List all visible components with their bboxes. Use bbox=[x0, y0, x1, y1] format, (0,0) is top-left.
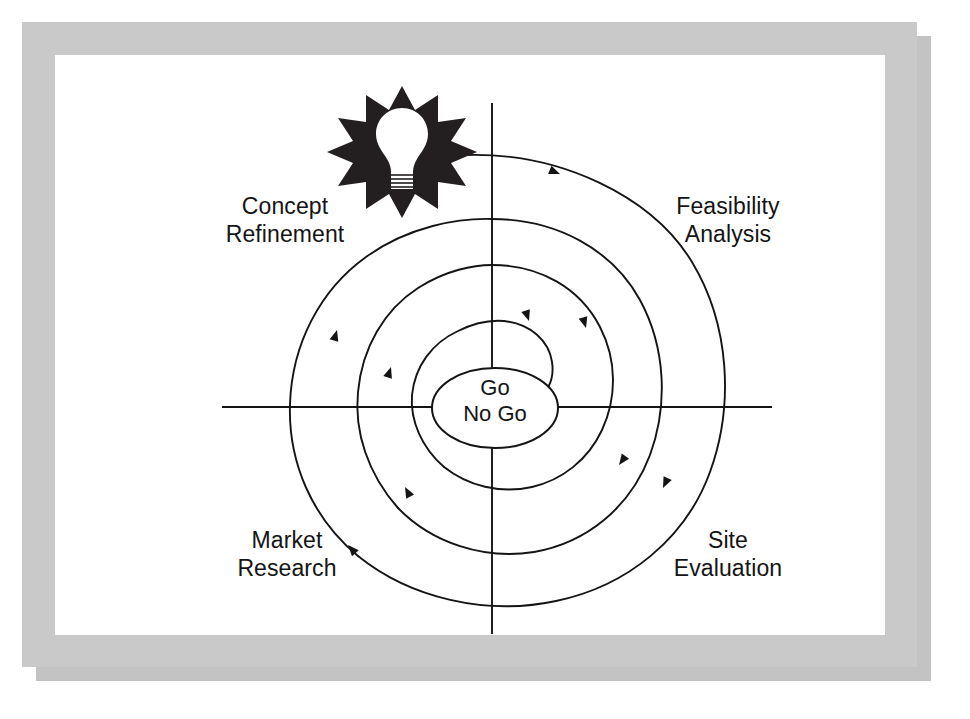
label-site-evaluation: Site Evaluation bbox=[628, 526, 828, 582]
label-market-research: Market Research bbox=[182, 526, 392, 582]
label-feasibility-analysis: Feasibility Analysis bbox=[628, 192, 828, 248]
label-concept-refinement: Concept Refinement bbox=[180, 192, 390, 248]
figure-root: Concept Refinement Feasibility Analysis … bbox=[0, 0, 970, 719]
label-go-no-go: Go No Go bbox=[434, 375, 556, 427]
